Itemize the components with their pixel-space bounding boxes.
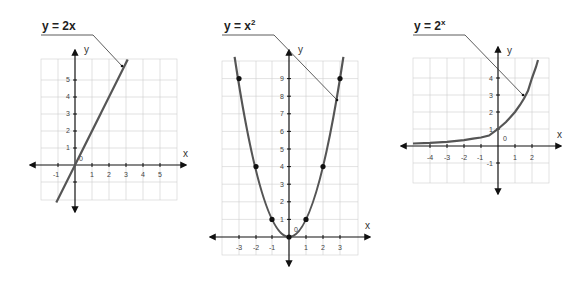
y-tick-label: 4 (489, 75, 493, 82)
x-tick-label: -4 (427, 154, 433, 161)
x-axis-label: x (365, 220, 370, 231)
x-tick-label: -3 (444, 154, 450, 161)
y-tick-label: 1 (280, 216, 284, 223)
graph-linear: -1 1 2 3 4 5 1 2 3 4 5 0 y x y = 2x (30, 19, 188, 212)
y-tick-label: 3 (66, 110, 70, 117)
x-tick-label: -3 (236, 244, 242, 251)
x-tick-label: 2 (530, 154, 534, 161)
y-tick-label: 4 (66, 93, 70, 100)
y-axis-label: y (298, 44, 303, 55)
x-tick-label: 5 (158, 171, 162, 178)
y-tick-label: 1 (489, 126, 493, 133)
x-tick-label: -2 (253, 244, 259, 251)
title-leader-line (413, 35, 523, 95)
y-tick-label: 1 (66, 144, 70, 151)
graph-quadratic: -3 -2 -1 1 2 3 1 2 3 4 5 6 7 8 9 0 y x y… (210, 18, 370, 266)
y-tick-label: 3 (489, 92, 493, 99)
x-axis-label: x (183, 148, 188, 159)
graph-title: y = 2x (42, 19, 76, 33)
origin-label: 0 (503, 135, 507, 142)
y-tick-label: 2 (280, 198, 284, 205)
x-tick-label: 4 (141, 171, 145, 178)
graph-exponential: -4 -3 -2 -1 1 2 -1 1 2 3 4 0 y x y = 2x (401, 18, 562, 194)
x-tick-label: 1 (304, 244, 308, 251)
y-tick-label: 7 (280, 110, 284, 117)
x-tick-label: 1 (513, 154, 517, 161)
y-tick-label: 3 (280, 181, 284, 188)
x-tick-label: -2 (461, 154, 467, 161)
x-tick-label: -1 (53, 171, 59, 178)
y-tick-label: 2 (66, 127, 70, 134)
function-graphs-figure: -1 1 2 3 4 5 1 2 3 4 5 0 y x y = 2x (0, 0, 587, 281)
x-tick-label: 2 (321, 244, 325, 251)
x-tick-label: 3 (124, 171, 128, 178)
title-leader-line (41, 35, 122, 66)
x-axis-label: x (557, 129, 562, 140)
curve-y-equals-2-pow-x (413, 60, 538, 144)
y-tick-label: 4 (280, 163, 284, 170)
x-tick-label: 2 (107, 171, 111, 178)
y-tick-label: 6 (280, 128, 284, 135)
y-tick-label: 2 (489, 109, 493, 116)
x-tick-label: -1 (269, 244, 275, 251)
y-tick-label: 5 (66, 76, 70, 83)
grid (413, 58, 549, 183)
y-tick-label: -1 (487, 160, 493, 167)
x-tick-label: 1 (90, 171, 94, 178)
grid (41, 59, 177, 200)
y-axis-label: y (507, 45, 512, 56)
y-tick-label: 8 (280, 93, 284, 100)
x-tick-label: 3 (338, 244, 342, 251)
graph-title: y = x2 (224, 18, 256, 33)
x-tick-label: -1 (477, 154, 483, 161)
y-tick-label: 9 (280, 75, 284, 82)
y-axis-label: y (84, 44, 89, 55)
y-tick-label: 5 (280, 146, 284, 153)
graph-title: y = 2x (414, 18, 446, 33)
